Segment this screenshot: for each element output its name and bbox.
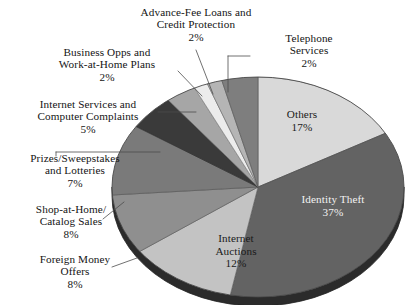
pie-chart-figure: Advance-Fee Loans and Credit Protection … — [0, 0, 413, 305]
slice-label-advance-fee-loans: Advance-Fee Loans and Credit Protection … — [124, 6, 268, 43]
slice-label-internet-auctions: Internet Auctions 12% — [190, 232, 282, 270]
label-line-2: Auctions — [190, 245, 282, 258]
label-line-2: Computer Complaints — [2, 110, 174, 122]
label-percent: 2% — [22, 71, 192, 83]
label-line-1: Internet Services and — [2, 98, 174, 110]
label-line-1: Business Opps and — [22, 46, 192, 58]
label-percent: 7% — [0, 177, 150, 189]
label-percent: 17% — [259, 121, 345, 134]
slice-label-business-opps: Business Opps and Work-at-Home Plans 2% — [22, 46, 192, 83]
label-line-2: Credit Protection — [124, 18, 268, 30]
slice-label-internet-services: Internet Services and Computer Complaint… — [2, 98, 174, 135]
label-percent: 37% — [281, 206, 385, 219]
label-line-2: Services — [254, 44, 364, 56]
label-percent: 8% — [4, 228, 138, 240]
label-line-1: Identity Theft — [281, 193, 385, 206]
label-percent: 8% — [12, 278, 138, 290]
slice-label-identity-theft: Identity Theft 37% — [281, 193, 385, 218]
label-percent: 5% — [2, 123, 174, 135]
slice-label-telephone-services: Telephone Services 2% — [254, 32, 364, 69]
slice-label-shop-at-home: Shop-at-Home/ Catalog Sales 8% — [4, 203, 138, 240]
slice-label-prizes-sweepstakes: Prizes/Sweepstakes and Lotteries 7% — [0, 152, 150, 189]
slice-label-foreign-money-offers: Foreign Money Offers 8% — [12, 253, 138, 290]
label-line-2: and Lotteries — [0, 164, 150, 176]
slice-label-others: Others 17% — [259, 108, 345, 133]
label-line-1: Shop-at-Home/ — [4, 203, 138, 215]
label-percent: 12% — [190, 257, 282, 270]
label-line-1: Advance-Fee Loans and — [124, 6, 268, 18]
label-line-1: Foreign Money — [12, 253, 138, 265]
label-line-1: Internet — [190, 232, 282, 245]
label-line-1: Telephone — [254, 32, 364, 44]
label-line-2: Offers — [12, 265, 138, 277]
label-line-1: Others — [259, 108, 345, 121]
label-line-2: Catalog Sales — [4, 215, 138, 227]
label-line-1: Prizes/Sweepstakes — [0, 152, 150, 164]
label-percent: 2% — [124, 31, 268, 43]
label-percent: 2% — [254, 57, 364, 69]
label-line-2: Work-at-Home Plans — [22, 58, 192, 70]
